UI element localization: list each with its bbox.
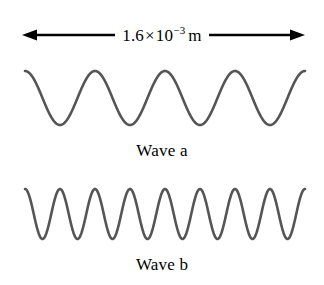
multiplication-sign-icon: × [144,26,156,45]
wave-a-caption: Wave a [0,142,324,159]
dimension-mantissa: 1.6 [122,26,144,45]
wave-block-a: Wave a [0,62,324,162]
dimension-unit: m [185,26,201,45]
wave-a-curve [0,62,324,134]
wave-comparison-figure: 1.6×10−3m Wave a Wave b [0,0,324,285]
dimension-base: 10 [156,26,173,45]
wave-b-caption: Wave b [0,256,324,273]
wave-block-b: Wave b [0,180,324,282]
dimension-arrow-row: 1.6×10−3m [0,18,324,52]
dimension-label: 1.6×10−3m [115,27,209,44]
wave-b-curve [0,180,324,248]
dimension-exponent: −3 [173,24,185,36]
